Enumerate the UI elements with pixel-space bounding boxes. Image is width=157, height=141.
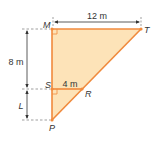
label-12m: 12 m: [87, 11, 107, 21]
point-t: [139, 27, 142, 30]
similar-triangles-diagram: 12 m 8 m 4 m L M T S R P: [0, 0, 157, 141]
label-4m: 4 m: [62, 79, 77, 89]
arrowhead-up-icon: [25, 90, 28, 94]
label-point-p: P: [49, 123, 55, 133]
arrowhead-up-icon: [25, 30, 28, 34]
point-p: [50, 118, 53, 121]
label-l: L: [18, 101, 23, 111]
label-point-r: R: [85, 89, 92, 99]
label-point-t: T: [144, 25, 151, 35]
label-point-s: S: [45, 80, 51, 90]
point-r: [80, 87, 83, 90]
label-point-m: M: [43, 20, 51, 30]
arrowhead-down-icon: [25, 84, 28, 88]
point-m: [50, 27, 53, 30]
arrowhead-down-icon: [25, 115, 28, 119]
label-8m: 8 m: [8, 57, 23, 67]
arrowhead-right-icon: [136, 20, 140, 23]
arrowhead-left-icon: [54, 20, 58, 23]
